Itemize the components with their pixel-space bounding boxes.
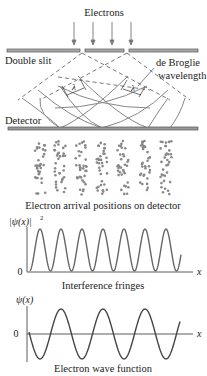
electron-dot	[159, 147, 162, 150]
electron-dot	[54, 167, 57, 170]
electron-dot	[59, 155, 62, 158]
electron-dot	[80, 193, 83, 196]
electron-dot	[101, 165, 104, 168]
electrons-label: Electrons	[84, 7, 124, 18]
de-broglie-pointer	[138, 68, 154, 86]
electron-dot	[170, 156, 173, 159]
electron-dot	[53, 149, 56, 152]
electron-dot	[167, 163, 170, 166]
electron-dot	[40, 181, 43, 184]
electron-dot	[64, 187, 67, 190]
fringes-caption: Interference fringes	[62, 280, 145, 291]
electron-dot	[126, 181, 129, 184]
double-slit-label: Double slit	[5, 55, 51, 66]
electron-dot	[116, 165, 119, 168]
electron-dot	[120, 189, 123, 192]
electron-dot	[83, 181, 86, 184]
lambda-right: λ	[130, 83, 135, 93]
electron-dot	[103, 183, 106, 186]
electron-dot	[79, 176, 82, 179]
electron-dot	[164, 175, 167, 178]
electron-dot	[63, 165, 66, 168]
electron-dot	[85, 170, 88, 173]
wave-ylabel: ψ(x)	[16, 294, 34, 306]
electron-dot	[78, 150, 81, 153]
electron-dot	[34, 165, 37, 168]
electron-dot	[54, 170, 57, 173]
electron-dot	[101, 193, 104, 196]
electron-dot	[169, 181, 172, 184]
electron-dot	[127, 159, 130, 162]
electron-dot	[84, 158, 87, 161]
electron-dot	[55, 181, 58, 184]
electron-dot	[61, 179, 64, 182]
electron-dot	[55, 183, 58, 186]
wave-x-label: x	[196, 328, 202, 339]
electron-dot	[163, 156, 166, 159]
electron-dot	[144, 165, 147, 168]
electron-dot	[84, 144, 87, 147]
electron-dot	[62, 169, 65, 172]
electron-dot	[126, 193, 129, 196]
electron-dot	[164, 154, 167, 157]
electron-dot	[37, 159, 40, 162]
electron-dot	[82, 165, 85, 168]
electron-dot	[103, 143, 106, 146]
electron-dot	[120, 145, 123, 148]
electron-dot	[57, 158, 60, 161]
electron-dot	[105, 157, 108, 160]
arrow-icon	[129, 22, 133, 45]
detector-label: Detector	[5, 115, 42, 126]
electron-dot	[160, 182, 163, 185]
electron-dot	[162, 191, 165, 194]
electron-dot	[54, 174, 57, 177]
electron-dot	[75, 164, 78, 167]
electron-dot	[64, 145, 67, 148]
electron-dot	[116, 149, 119, 152]
electron-dot	[106, 189, 109, 192]
electron-dot	[117, 174, 120, 177]
electron-dot	[122, 140, 125, 143]
electron-dot	[76, 177, 79, 180]
electron-dot	[96, 161, 99, 164]
electron-dot	[42, 148, 45, 151]
electron-dot	[143, 174, 146, 177]
electron-dot	[170, 153, 173, 156]
electron-dot	[100, 184, 103, 187]
electron-dot	[143, 140, 146, 143]
electron-dot	[98, 169, 101, 172]
de-broglie-label-line2: wavelength	[158, 70, 207, 81]
detector-bar	[8, 127, 198, 130]
electron-dot	[123, 193, 126, 196]
double-slit-barrier	[7, 49, 198, 52]
fringes-x-label: x	[196, 266, 202, 277]
electron-dot	[55, 141, 58, 144]
electron-dot	[141, 140, 144, 143]
electron-dot	[78, 154, 81, 157]
electron-dot	[124, 164, 127, 167]
electron-dot	[168, 161, 171, 164]
electron-dot	[160, 186, 163, 189]
electron-dot	[78, 143, 81, 146]
electron-dot	[98, 166, 101, 169]
electron-dot	[103, 147, 106, 150]
wave-caption: Electron wave function	[54, 363, 153, 374]
de-broglie-label-line1: de Broglie	[156, 57, 200, 68]
electron-dot	[34, 149, 37, 152]
electron-dot	[80, 151, 83, 154]
electron-dot	[119, 171, 122, 174]
electron-dot	[101, 180, 104, 183]
electron-dot	[62, 147, 65, 150]
electron-dot	[79, 167, 82, 170]
electron-dot	[63, 176, 66, 179]
electron-dot	[147, 157, 150, 160]
electron-dot	[168, 141, 171, 144]
electron-dot	[100, 173, 103, 176]
electron-dot	[57, 152, 60, 155]
electron-dot	[96, 187, 99, 190]
electron-dot	[120, 173, 123, 176]
electron-dot	[38, 142, 41, 145]
electron-dot	[42, 155, 45, 158]
arrow-icon	[91, 22, 95, 45]
electron-dot	[38, 146, 41, 149]
